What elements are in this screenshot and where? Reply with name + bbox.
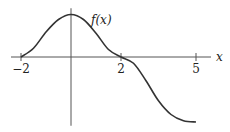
x-tick-label: −2 <box>12 62 30 76</box>
chart: −225 x f(x) <box>0 0 230 132</box>
x-tick-label: 5 <box>192 62 200 76</box>
curve-label: f(x) <box>90 13 112 27</box>
x-tick-label: 2 <box>117 62 125 76</box>
x-axis-label: x <box>216 50 223 64</box>
series-line-f <box>21 15 196 123</box>
